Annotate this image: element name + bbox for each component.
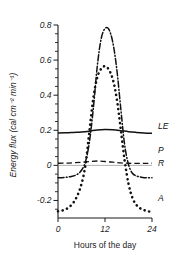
label-A: A bbox=[157, 193, 164, 203]
x-tick-label: 24 bbox=[146, 224, 157, 234]
x-tick-label: 12 bbox=[100, 224, 110, 234]
y-tick-label: 0.4 bbox=[40, 90, 52, 100]
curve-A bbox=[58, 66, 152, 212]
energy-flux-chart: Energy flux (cal cm⁻² min⁻¹) -0.200.20.4… bbox=[0, 0, 176, 260]
y-tick-label: 0.8 bbox=[40, 20, 52, 30]
x-tick-label: 0 bbox=[56, 224, 61, 234]
y-tick-label: 0.2 bbox=[40, 125, 52, 135]
curve-Rn bbox=[58, 27, 152, 177]
series-inline-labels: LEPRA bbox=[157, 121, 169, 203]
axis-ticks bbox=[54, 25, 153, 222]
y-axis-title-group: Energy flux (cal cm⁻² min⁻¹) bbox=[8, 72, 18, 177]
axis-lines bbox=[58, 25, 152, 218]
x-tick-labels: 01224 bbox=[56, 224, 157, 234]
curve-LE bbox=[58, 129, 152, 133]
y-tick-label: -0.2 bbox=[37, 195, 52, 205]
y-tick-label: 0.6 bbox=[40, 55, 52, 65]
curve-P bbox=[58, 161, 152, 163]
figure-container: Energy flux (cal cm⁻² min⁻¹) -0.200.20.4… bbox=[0, 0, 176, 260]
x-axis-title: Hours of the day bbox=[74, 240, 137, 250]
data-curves bbox=[58, 27, 152, 211]
y-tick-label: 0 bbox=[47, 160, 52, 170]
y-tick-labels: -0.200.20.40.60.8 bbox=[37, 20, 52, 205]
label-LE: LE bbox=[158, 121, 169, 131]
label-P: P bbox=[158, 145, 164, 155]
y-axis-title: Energy flux (cal cm⁻² min⁻¹) bbox=[8, 72, 18, 177]
label-R: R bbox=[158, 158, 164, 168]
